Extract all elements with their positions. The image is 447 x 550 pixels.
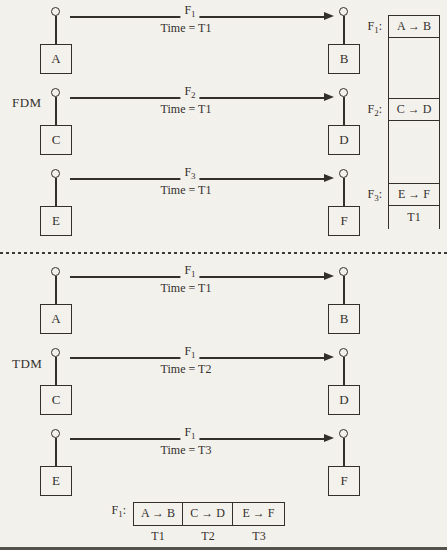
- spectrum-band-label: F3:: [352, 187, 382, 201]
- arrowhead-icon: [324, 353, 334, 361]
- frequency-subscript: 3: [191, 171, 196, 181]
- antenna-mast: [343, 438, 345, 466]
- frequency-base: F: [184, 84, 191, 98]
- frequency-label: F2: [180, 84, 199, 99]
- arrowhead-icon: [324, 93, 334, 101]
- rx-station-box: F: [328, 206, 360, 236]
- arrowhead-icon: [324, 12, 334, 20]
- frequency-subscript: 1: [191, 350, 196, 360]
- arrowhead-icon: [324, 434, 334, 442]
- rx-station-box: B: [328, 304, 360, 334]
- antenna-circle-icon: [51, 7, 60, 16]
- antenna-circle-icon: [51, 267, 60, 276]
- antenna-mast: [343, 178, 345, 206]
- frequency-base: F: [184, 3, 191, 17]
- arrowhead-icon: [324, 272, 334, 280]
- arrowhead-icon: [324, 174, 334, 182]
- antenna-mast: [55, 16, 57, 44]
- frequency-base: F: [184, 165, 191, 179]
- spectrum-band-label: F2:: [352, 102, 382, 116]
- rx-station-box: D: [328, 385, 360, 415]
- frequency-base: F: [184, 344, 191, 358]
- tx-station-box: E: [40, 206, 72, 236]
- frequency-subscript: 2: [191, 90, 196, 100]
- antenna-mast: [55, 438, 57, 466]
- antenna-mast: [343, 276, 345, 304]
- band-label-colon: :: [379, 19, 382, 33]
- antenna-mast: [55, 97, 57, 125]
- tx-station-box: C: [40, 125, 72, 155]
- time-label: Time = T1: [161, 183, 212, 198]
- antenna-circle-icon: [339, 169, 348, 178]
- antenna-mast: [55, 178, 57, 206]
- frequency-subscript: 1: [191, 269, 196, 279]
- frequency-base: F: [184, 425, 191, 439]
- tx-station-box: A: [40, 44, 72, 74]
- frame-label-colon: :: [123, 503, 126, 517]
- rx-station-box: B: [328, 44, 360, 74]
- antenna-mast: [55, 276, 57, 304]
- spectrum-band-cell: C → D: [388, 98, 440, 121]
- spectrum-band-cell: A → B: [388, 15, 440, 38]
- frequency-label: F1: [180, 425, 199, 440]
- time-label: Time = T1: [161, 21, 212, 36]
- antenna-circle-icon: [51, 348, 60, 357]
- antenna-circle-icon: [339, 7, 348, 16]
- frequency-label: F1: [180, 263, 199, 278]
- tx-station-box: A: [40, 304, 72, 334]
- antenna-circle-icon: [339, 88, 348, 97]
- tdm-frame-slot: C → D: [182, 502, 233, 526]
- frame-frequency-label: F1:: [96, 503, 126, 517]
- time-label: Time = T1: [161, 102, 212, 117]
- spectrum-time-label: T1: [388, 210, 440, 225]
- spectrum-band-cell: E → F: [388, 183, 440, 206]
- frequency-label: F1: [180, 3, 199, 18]
- time-label: Time = T1: [161, 281, 212, 296]
- tdm-frame-slot: E → F: [232, 502, 285, 526]
- frequency-subscript: 1: [191, 9, 196, 19]
- multiplexing-diagram: FDM A F1 Time = T1 B C F2 Time = T1 D E …: [0, 0, 447, 550]
- frequency-label: F3: [180, 165, 199, 180]
- antenna-mast: [343, 16, 345, 44]
- tx-station-box: E: [40, 466, 72, 496]
- antenna-circle-icon: [51, 169, 60, 178]
- antenna-circle-icon: [339, 348, 348, 357]
- frequency-base: F: [184, 263, 191, 277]
- rx-station-box: D: [328, 125, 360, 155]
- spectrum-band-label: F1:: [352, 19, 382, 33]
- frame-slot-time-label: T3: [252, 529, 265, 544]
- antenna-circle-icon: [339, 429, 348, 438]
- section-divider-dashed-line: [0, 252, 447, 254]
- band-label-colon: :: [379, 187, 382, 201]
- antenna-circle-icon: [339, 267, 348, 276]
- frame-slot-time-label: T1: [151, 529, 164, 544]
- time-label: Time = T2: [161, 362, 212, 377]
- tdm-frame-slot: A → B: [133, 502, 183, 526]
- antenna-circle-icon: [51, 88, 60, 97]
- tx-station-box: C: [40, 385, 72, 415]
- time-label: Time = T3: [161, 443, 212, 458]
- frequency-label: F1: [180, 344, 199, 359]
- antenna-mast: [343, 357, 345, 385]
- tdm-section-label: TDM: [12, 356, 42, 372]
- fdm-section-label: FDM: [12, 95, 42, 111]
- frequency-subscript: 1: [191, 431, 196, 441]
- band-label-colon: :: [379, 102, 382, 116]
- antenna-circle-icon: [51, 429, 60, 438]
- frame-slot-time-label: T2: [201, 529, 214, 544]
- antenna-mast: [343, 97, 345, 125]
- rx-station-box: F: [328, 466, 360, 496]
- antenna-mast: [55, 357, 57, 385]
